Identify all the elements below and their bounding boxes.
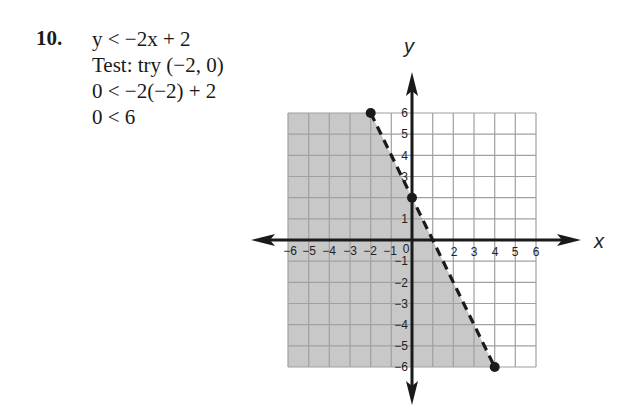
svg-text:−2: −2 <box>394 276 408 290</box>
svg-text:−4: −4 <box>394 318 408 332</box>
svg-text:1: 1 <box>401 212 408 226</box>
svg-text:−5: −5 <box>394 339 408 353</box>
svg-text:2: 2 <box>451 245 458 259</box>
svg-text:−2: −2 <box>363 244 377 258</box>
point-0-2 <box>407 193 417 203</box>
svg-text:6: 6 <box>401 106 408 120</box>
svg-text:3: 3 <box>471 245 478 259</box>
svg-text:5: 5 <box>512 245 519 259</box>
point-4-neg6 <box>490 362 500 372</box>
x-axis-label: x <box>593 230 605 252</box>
svg-text:4: 4 <box>401 149 408 163</box>
svg-text:−5: −5 <box>302 244 316 258</box>
point-neg2-6 <box>366 108 376 118</box>
y-axis-label: y <box>402 35 415 57</box>
svg-text:−3: −3 <box>343 244 357 258</box>
svg-text:4: 4 <box>492 245 499 259</box>
svg-text:−3: −3 <box>394 297 408 311</box>
svg-text:6: 6 <box>533 245 540 259</box>
svg-text:−6: −6 <box>394 360 408 374</box>
svg-text:−4: −4 <box>322 244 336 258</box>
svg-text:−1: −1 <box>394 254 408 268</box>
svg-text:5: 5 <box>401 127 408 141</box>
svg-text:−6: −6 <box>283 244 297 258</box>
coordinate-graph: x y −6 −5 −4 −3 −2 −1 0 2 3 4 5 6 6 5 4 … <box>0 0 633 408</box>
